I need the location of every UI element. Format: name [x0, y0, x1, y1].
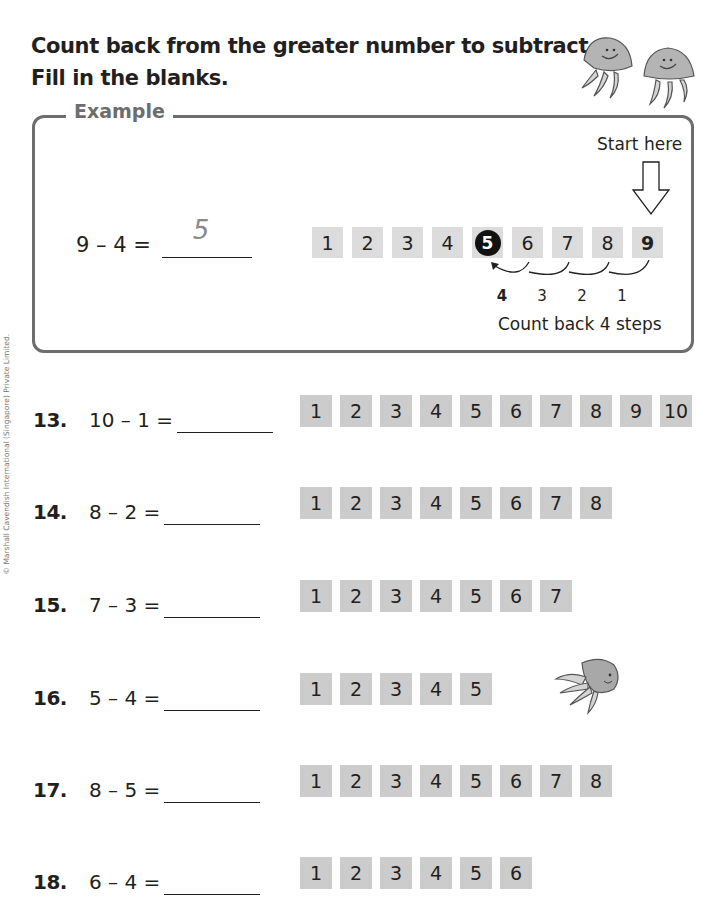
number-box: 9 — [620, 395, 652, 427]
number-box: 4 — [420, 487, 452, 519]
number-box: 6 — [500, 487, 532, 519]
question-16-number: 16. — [33, 686, 67, 710]
question-16-answer-field[interactable] — [164, 686, 260, 711]
number-box: 5 — [460, 487, 492, 519]
example-box-1: 1 — [312, 227, 343, 258]
instruction-line-2: Fill in the blanks. — [31, 62, 596, 94]
example-box-8: 8 — [592, 227, 623, 258]
number-box: 5 — [460, 673, 492, 705]
question-15-answer-field[interactable] — [164, 593, 260, 618]
question-15-text: 7 – 3 = — [89, 593, 160, 617]
question-14-number-line: 1 2 3 4 5 6 7 8 — [300, 487, 612, 519]
number-box: 10 — [660, 395, 692, 427]
question-14-answer-field[interactable] — [164, 500, 260, 525]
example-number-line: 1 2 3 4 5 6 7 8 9 — [312, 227, 663, 258]
number-box: 5 — [460, 765, 492, 797]
jellyfish-pair-icon — [574, 30, 704, 112]
copyright-notice: © Marshall Cavendish International (Sing… — [2, 375, 11, 575]
number-box: 4 — [420, 580, 452, 612]
number-box: 7 — [540, 765, 572, 797]
number-box: 1 — [300, 857, 332, 889]
number-box: 5 — [460, 395, 492, 427]
question-17-equation: 8 – 5 = — [89, 778, 260, 803]
question-13-equation: 10 – 1 = — [89, 408, 273, 433]
example-label: Example — [66, 100, 173, 122]
question-15-equation: 7 – 3 = — [89, 593, 260, 618]
number-box: 4 — [420, 857, 452, 889]
example-box-9-start: 9 — [632, 227, 663, 258]
step-numbers: 4 3 2 1 — [492, 287, 632, 305]
count-back-caption: Count back 4 steps — [498, 314, 662, 334]
start-here-label: Start here — [597, 134, 682, 154]
down-arrow-icon — [631, 160, 671, 216]
question-14-number: 14. — [33, 500, 67, 524]
count-back-arcs-icon — [485, 258, 655, 288]
question-18-text: 6 – 4 = — [89, 870, 160, 894]
question-17-answer-field[interactable] — [164, 778, 260, 803]
step-4: 4 — [492, 287, 512, 305]
number-box: 2 — [340, 673, 372, 705]
number-box: 5 — [460, 580, 492, 612]
step-1: 1 — [612, 287, 632, 305]
instruction-line-1: Count back from the greater number to su… — [31, 30, 596, 62]
number-box: 7 — [540, 395, 572, 427]
number-box: 2 — [340, 765, 372, 797]
question-18-answer-field[interactable] — [164, 870, 260, 895]
question-16-number-line: 1 2 3 4 5 — [300, 673, 492, 705]
number-box: 3 — [380, 673, 412, 705]
question-17-number: 17. — [33, 778, 67, 802]
number-box: 3 — [380, 580, 412, 612]
example-box-2: 2 — [352, 227, 383, 258]
example-answer: 5 — [156, 215, 246, 245]
jellyfish-single-icon — [548, 655, 624, 717]
question-15-number-line: 1 2 3 4 5 6 7 — [300, 580, 572, 612]
number-box: 2 — [340, 487, 372, 519]
number-box: 2 — [340, 580, 372, 612]
question-15-number: 15. — [33, 593, 67, 617]
question-16-text: 5 – 4 = — [89, 686, 160, 710]
number-box: 7 — [540, 487, 572, 519]
number-box: 1 — [300, 673, 332, 705]
question-14-text: 8 – 2 = — [89, 500, 160, 524]
number-box: 6 — [500, 765, 532, 797]
number-box: 5 — [460, 857, 492, 889]
question-16-equation: 5 – 4 = — [89, 686, 260, 711]
circled-result: 5 — [475, 230, 501, 256]
number-box: 1 — [300, 580, 332, 612]
number-box: 2 — [340, 395, 372, 427]
number-box: 1 — [300, 395, 332, 427]
number-box: 8 — [580, 487, 612, 519]
question-17-number-line: 1 2 3 4 5 6 7 8 — [300, 765, 612, 797]
example-box-7: 7 — [552, 227, 583, 258]
question-13-number-line: 1 2 3 4 5 6 7 8 9 10 — [300, 395, 692, 427]
number-box: 7 — [540, 580, 572, 612]
question-13-answer-field[interactable] — [177, 408, 273, 433]
example-box-6: 6 — [512, 227, 543, 258]
number-box: 8 — [580, 765, 612, 797]
example-box-5-result: 5 — [472, 227, 503, 258]
question-13-number: 13. — [33, 408, 67, 432]
question-17-text: 8 – 5 = — [89, 778, 160, 802]
number-box: 4 — [420, 673, 452, 705]
question-14-equation: 8 – 2 = — [89, 500, 260, 525]
example-box-4: 4 — [432, 227, 463, 258]
number-box: 1 — [300, 765, 332, 797]
instructions: Count back from the greater number to su… — [31, 30, 596, 94]
number-box: 3 — [380, 765, 412, 797]
number-box: 3 — [380, 487, 412, 519]
number-box: 8 — [580, 395, 612, 427]
number-box: 6 — [500, 857, 532, 889]
number-box: 3 — [380, 395, 412, 427]
number-box: 4 — [420, 765, 452, 797]
number-box: 2 — [340, 857, 372, 889]
number-box: 6 — [500, 580, 532, 612]
question-18-equation: 6 – 4 = — [89, 870, 260, 895]
question-18-number: 18. — [33, 870, 67, 894]
number-box: 3 — [380, 857, 412, 889]
number-box: 6 — [500, 395, 532, 427]
number-box: 1 — [300, 487, 332, 519]
question-13-text: 10 – 1 = — [89, 408, 173, 432]
example-box-3: 3 — [392, 227, 423, 258]
example-equation-text: 9 – 4 = — [76, 233, 151, 257]
number-box: 4 — [420, 395, 452, 427]
